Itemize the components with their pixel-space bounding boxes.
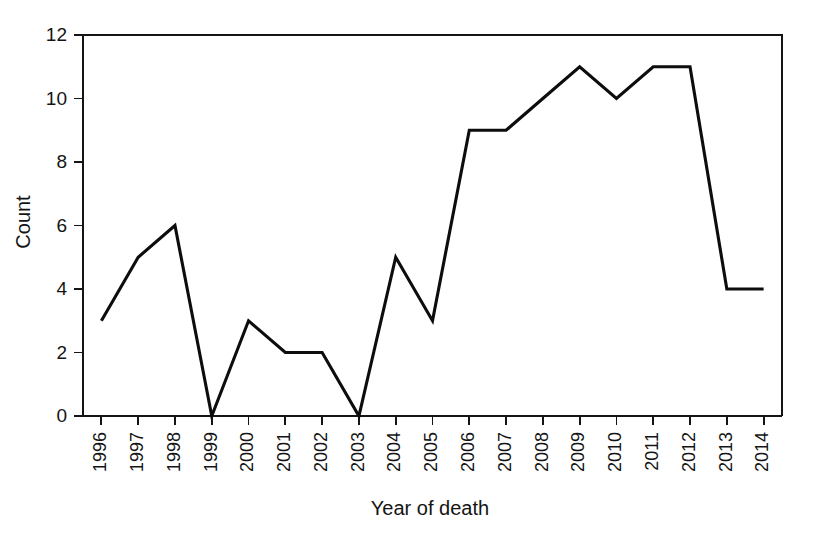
y-tick-label: 6 (56, 215, 67, 236)
x-tick-label: 2007 (495, 432, 515, 472)
x-tick-label: 1997 (127, 432, 147, 472)
axes-group (83, 35, 782, 416)
x-tick-label: 2010 (605, 432, 625, 472)
x-tick-label: 2008 (532, 432, 552, 472)
x-axis-ticks (101, 416, 763, 425)
x-tick-label: 2005 (421, 432, 441, 472)
y-tick-label: 4 (56, 278, 67, 299)
y-axis-title: Count (12, 195, 34, 249)
x-tick-label: 2002 (311, 432, 331, 472)
x-tick-label: 2001 (274, 432, 294, 472)
y-tick-label: 10 (46, 88, 67, 109)
data-line-count (101, 67, 763, 416)
y-tick-label: 8 (56, 151, 67, 172)
y-tick-label: 2 (56, 342, 67, 363)
y-tick-label: 0 (56, 405, 67, 426)
x-tick-label: 2009 (568, 432, 588, 472)
x-tick-label: 2006 (458, 432, 478, 472)
x-axis-tick-labels: 1996199719981999200020012002200320042005… (90, 432, 772, 472)
x-tick-label: 1999 (201, 432, 221, 472)
x-tick-label: 1998 (164, 432, 184, 472)
x-tick-label: 2014 (752, 432, 772, 472)
data-series-group (101, 67, 763, 416)
x-tick-label: 2013 (716, 432, 736, 472)
y-tick-label: 12 (46, 24, 67, 45)
x-axis-title: Year of death (371, 497, 489, 519)
chart-canvas: 024681012 199619971998199920002001200220… (0, 0, 814, 547)
plot-frame (83, 35, 782, 416)
x-tick-label: 2012 (679, 432, 699, 472)
x-tick-label: 2011 (642, 432, 662, 471)
x-tick-label: 2000 (237, 432, 257, 472)
x-tick-label: 2004 (384, 432, 404, 472)
line-chart-figure: 024681012 199619971998199920002001200220… (0, 0, 814, 547)
x-tick-label: 1996 (90, 432, 110, 472)
y-axis-ticks (74, 35, 83, 416)
y-axis-tick-labels: 024681012 (46, 24, 68, 426)
x-tick-label: 2003 (348, 432, 368, 472)
